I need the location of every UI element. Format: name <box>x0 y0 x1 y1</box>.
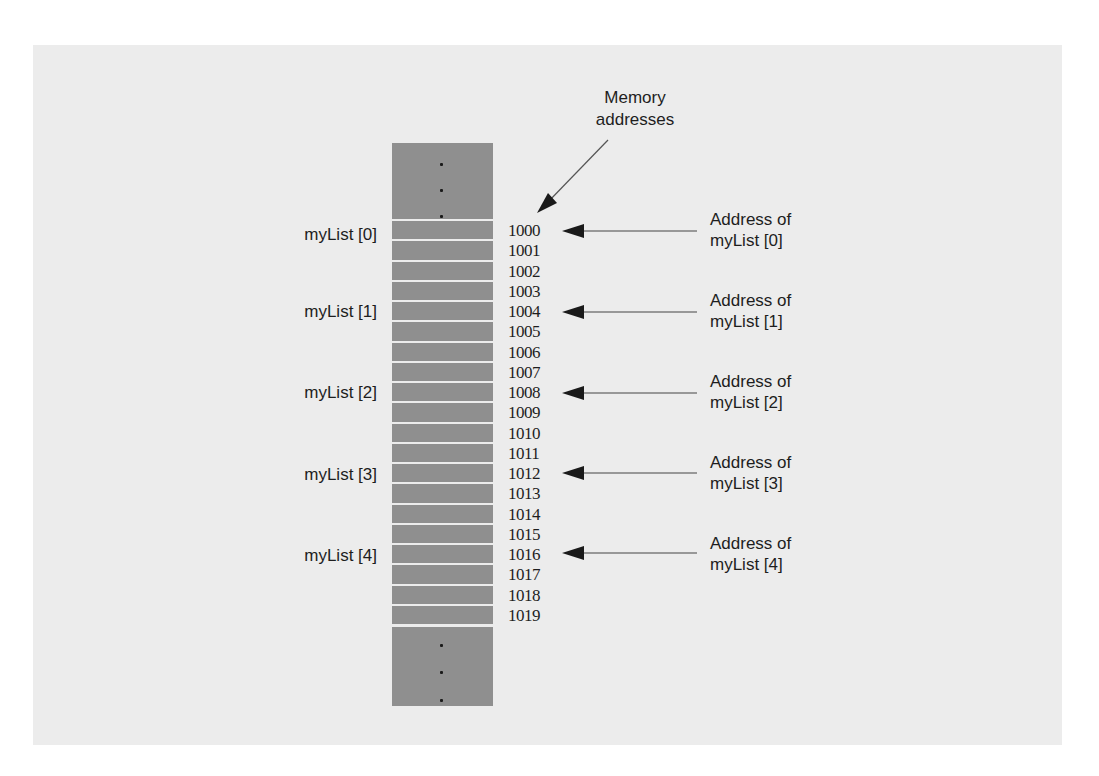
arrow-icon-element-4 <box>562 546 697 560</box>
arrow-icon-element-1 <box>562 305 697 319</box>
arrow-icon-element-2 <box>562 386 697 400</box>
arrow-icon-element-3 <box>562 466 697 480</box>
arrows-layer <box>0 0 1099 776</box>
memory-title-arrow-icon <box>537 140 608 213</box>
arrow-icon-element-0 <box>562 224 697 238</box>
